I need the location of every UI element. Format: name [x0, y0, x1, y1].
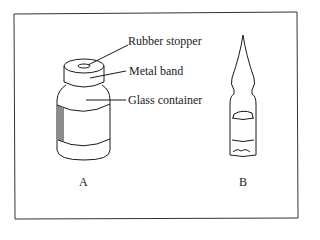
vial-drawing [57, 59, 110, 160]
label-rubber-stopper: Rubber stopper [128, 35, 202, 47]
ampule-drawing [230, 35, 256, 157]
label-b: B [239, 176, 247, 188]
label-a: A [79, 176, 88, 188]
label-metal-band: Metal band [129, 65, 183, 77]
leader-stopper [88, 45, 128, 65]
label-glass-container: Glass container [128, 94, 202, 106]
